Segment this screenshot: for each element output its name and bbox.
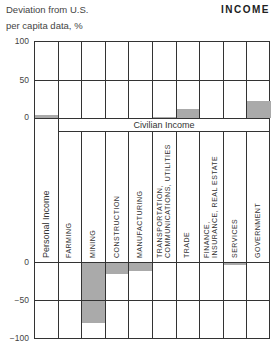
column-divider (152, 263, 153, 338)
category-label-line: INSURANCE, REAL ESTATE (211, 156, 219, 258)
column-divider (105, 263, 106, 338)
column-divider (176, 42, 177, 118)
column-divider (223, 263, 224, 338)
civilian-income-group-label: Civilian Income (58, 118, 270, 132)
column-divider (81, 42, 82, 118)
category-label-3: CONSTRUCTION (113, 196, 121, 258)
category-label-9: GOVERNMENT (254, 203, 262, 258)
category-label-4: MANUFACTURING (136, 190, 144, 258)
column-divider (105, 42, 106, 118)
lower-plot-panel (34, 262, 270, 339)
column-divider (176, 263, 177, 338)
column-divider (246, 42, 247, 118)
column-divider (199, 263, 200, 338)
column-divider (81, 132, 82, 262)
category-label-line: FARMING (65, 223, 73, 258)
column-divider (152, 132, 153, 262)
column-divider (223, 42, 224, 118)
y-tick-0-upper: 0 (0, 112, 29, 122)
category-label-0: Personal Income (42, 190, 50, 258)
category-label-area: Personal IncomeFARMINGMININGCONSTRUCTION… (34, 118, 270, 262)
category-label-line: MINING (89, 230, 97, 258)
category-label-2: MINING (89, 230, 97, 258)
column-divider (128, 263, 129, 338)
category-label-8: SERVICES (231, 219, 239, 258)
category-label-6: TRADE (183, 232, 191, 258)
column-divider (199, 42, 200, 118)
y-tick-100: 100 (0, 36, 29, 46)
y-tick-0-lower: 0 (0, 257, 29, 267)
bar-6 (177, 109, 201, 118)
category-label-line: FINANCE, (203, 156, 211, 258)
bar-9 (247, 101, 271, 118)
category-label-line: TRADE (183, 232, 191, 258)
column-divider (152, 42, 153, 118)
category-label-line: COMMUNICATIONS, UTILITIES (164, 144, 172, 258)
column-divider (58, 118, 59, 262)
bar-3 (106, 263, 130, 274)
column-divider (58, 263, 59, 338)
column-divider (105, 132, 106, 262)
bar-4 (129, 263, 153, 271)
category-label-line: MANUFACTURING (136, 190, 144, 258)
y-tick-50: 50 (0, 75, 29, 85)
y-tick-minus-100: −100 (0, 333, 29, 343)
category-label-5: TRANSPORTATION,COMMUNICATIONS, UTILITIES (156, 144, 172, 258)
category-label-7: FINANCE,INSURANCE, REAL ESTATE (203, 156, 219, 258)
column-divider (199, 132, 200, 262)
column-divider (128, 132, 129, 262)
column-divider (246, 132, 247, 262)
bar-8 (224, 263, 248, 265)
source-caption (60, 343, 210, 350)
column-divider (81, 263, 82, 338)
category-label-line: Personal Income (42, 190, 50, 258)
bar-2 (82, 263, 106, 323)
y-axis-label-line2: per capita data, % (6, 20, 83, 31)
column-divider (269, 118, 270, 262)
y-axis-label-line1: Deviation from U.S. (6, 4, 88, 15)
column-divider (176, 132, 177, 262)
chart-title: INCOME (221, 4, 270, 15)
category-label-line: GOVERNMENT (254, 203, 262, 258)
category-label-line: CONSTRUCTION (113, 196, 121, 258)
column-divider (223, 132, 224, 262)
y-tick-minus-50: −50 (0, 295, 29, 305)
category-label-line: TRANSPORTATION, (156, 144, 164, 258)
column-divider (58, 42, 59, 118)
column-divider (246, 263, 247, 338)
column-divider (128, 42, 129, 118)
category-label-line: SERVICES (231, 219, 239, 258)
column-divider (34, 118, 35, 262)
category-label-1: FARMING (65, 223, 73, 258)
upper-plot-panel (34, 41, 270, 119)
